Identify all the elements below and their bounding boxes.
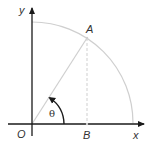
segment-oa — [32, 38, 87, 124]
point-b-label: B — [83, 129, 90, 141]
origin-label: O — [17, 128, 26, 140]
point-a-label: A — [85, 23, 93, 35]
unit-circle-diagram: y x O A B θ — [0, 0, 153, 146]
point-a-dot — [86, 37, 88, 39]
x-axis-label: x — [132, 129, 139, 141]
y-axis-label: y — [18, 4, 26, 16]
point-b-dot — [86, 123, 88, 125]
quarter-circle-arc — [32, 22, 133, 123]
angle-theta-label: θ — [49, 108, 55, 119]
